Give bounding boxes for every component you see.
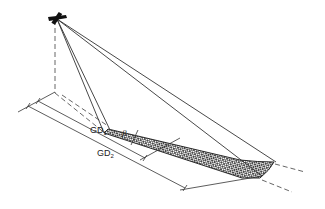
ground-track-far-1 bbox=[275, 164, 305, 172]
beta-label: β bbox=[121, 128, 127, 138]
gd2-tick-end bbox=[183, 185, 187, 191]
ray-far-2 bbox=[57, 19, 276, 162]
diagram-canvas: GD1 GD2 β bbox=[0, 0, 325, 209]
ray-near-1 bbox=[57, 19, 104, 133]
ray-near-2 bbox=[57, 19, 110, 130]
gd1-tick-start bbox=[36, 98, 40, 104]
ground-track-far-2 bbox=[262, 180, 292, 192]
diagram-figure: GD1 GD2 β bbox=[0, 0, 325, 209]
ray-far-1 bbox=[57, 19, 262, 176]
swath bbox=[104, 129, 274, 178]
gd2-ext bbox=[180, 176, 262, 190]
dim-ext-origin bbox=[18, 92, 55, 112]
gd1-label: GD1 bbox=[90, 125, 108, 136]
